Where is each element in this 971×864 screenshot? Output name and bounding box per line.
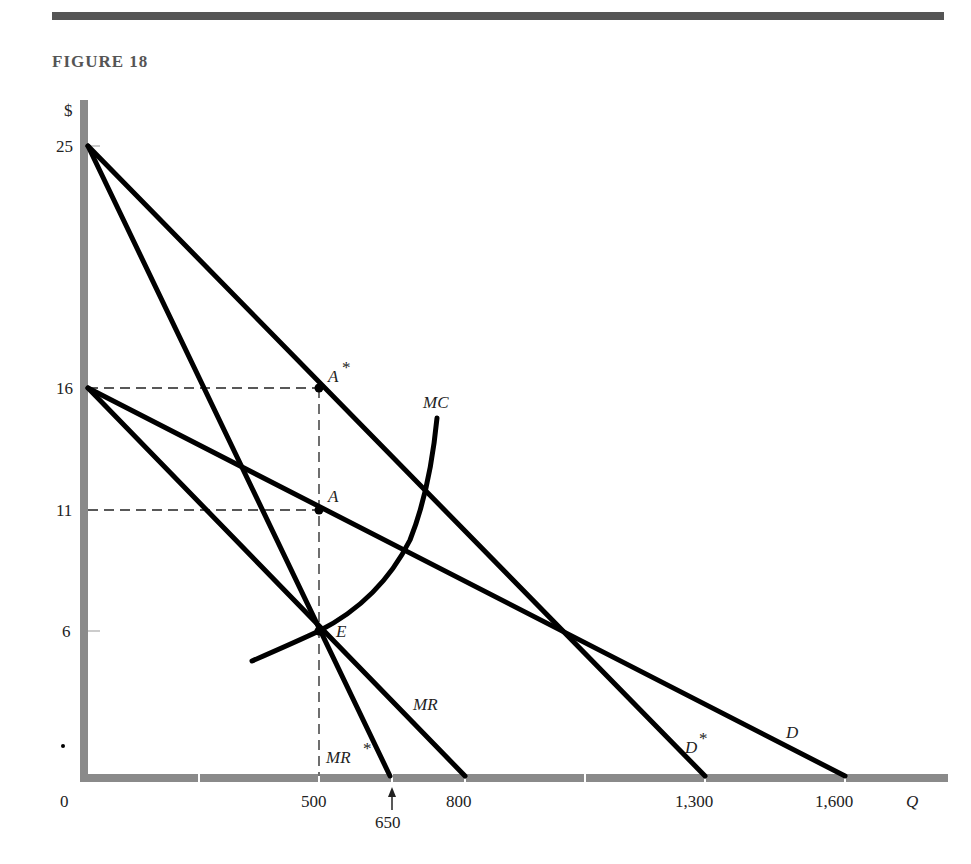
y-axis — [80, 100, 88, 782]
point-e — [315, 627, 324, 636]
y-axis-label: $ — [64, 101, 73, 120]
x-tick-650: 650 — [375, 813, 401, 832]
d-label: D — [785, 723, 799, 742]
x-axis — [80, 774, 948, 782]
mr-label: MR — [412, 695, 438, 714]
origin-label: 0 — [60, 792, 69, 811]
point-a — [315, 506, 324, 515]
d-star-line — [88, 146, 705, 776]
y-tick-6: 6 — [62, 622, 71, 641]
y-tick-25: 25 — [56, 137, 73, 156]
mr-star-line — [88, 146, 390, 776]
a-label: A — [327, 487, 339, 506]
x-tick-500: 500 — [301, 792, 327, 811]
x-axis-label: Q — [906, 792, 918, 811]
mr-star-label: MR — [325, 748, 351, 767]
a-star-label: A — [327, 367, 339, 386]
a-star-asterisk: * — [342, 358, 351, 377]
y-tick-11: 11 — [56, 501, 72, 520]
mc-label: MC — [422, 393, 449, 412]
mr-line — [88, 388, 465, 776]
d-line — [88, 388, 845, 776]
x-tick-1300: 1,300 — [675, 792, 713, 811]
e-label: E — [335, 622, 347, 641]
y-tick-16: 16 — [56, 379, 73, 398]
d-star-asterisk: * — [699, 729, 708, 748]
d-star-label: D — [684, 738, 698, 757]
stray-dot — [61, 744, 65, 748]
mr-star-asterisk: * — [363, 739, 372, 758]
point-a-star — [315, 384, 324, 393]
points — [61, 384, 324, 749]
x-tick-1600: 1,600 — [815, 792, 853, 811]
chart: $ 25 16 11 6 0 500 800 1,300 1,600 Q 650… — [0, 0, 971, 864]
arrow-up-icon — [388, 787, 396, 810]
x-tick-800: 800 — [446, 792, 472, 811]
